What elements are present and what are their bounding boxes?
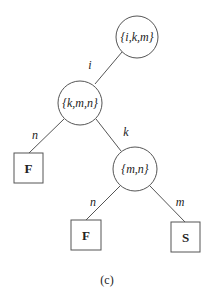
caption: (c) [100,273,113,287]
tree-diagram: {i,k,m} {k,m,n} {m,n} F F S i n k n m (c… [0,0,213,303]
edge-label-n-bottom: n [90,195,96,209]
leaf-s-label: S [182,230,189,245]
edge-label-i: i [88,58,91,72]
leaf-f-bottom: F [71,220,101,250]
leaf-s: S [171,222,200,252]
leaf-f-bottom-label: F [82,228,90,243]
node-kmn: {k,m,n} [58,81,102,125]
edge-root-kmn [95,52,122,84]
node-kmn-label: {k,m,n} [62,96,98,110]
node-mn-label: {m,n} [121,162,148,176]
edge-label-k: k [123,125,129,139]
node-root-label: {i,k,m} [121,30,154,44]
node-mn: {m,n} [113,147,157,191]
edge-kmn-mn [96,119,121,151]
leaf-f-left-label: F [25,161,33,176]
leaf-f-left: F [14,153,43,183]
edge-label-m: m [176,195,185,209]
edge-label-n-left: n [32,128,38,142]
node-root: {i,k,m} [116,16,158,58]
